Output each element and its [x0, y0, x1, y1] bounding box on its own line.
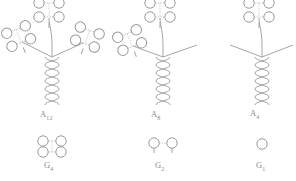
label-G2-sub: 2 — [161, 166, 164, 172]
structure-A8 — [111, 0, 197, 105]
label-G4: G4 — [44, 160, 54, 172]
label-A12: A12 — [40, 109, 53, 121]
structure-A4 — [230, 0, 293, 105]
label-G4-sub: 4 — [50, 166, 53, 172]
legend-item-G2 — [149, 138, 177, 153]
A4-arm-left-bare — [230, 45, 262, 57]
A12-arm-top — [49, 18, 52, 57]
A8-double-helix-stem — [156, 57, 170, 105]
structure-A12 — [0, 0, 106, 105]
label-A4: A4 — [250, 108, 260, 120]
label-A12-sub: 12 — [46, 115, 52, 121]
legend-item-G4 — [38, 136, 66, 157]
A4-cluster-top-G4 — [244, 0, 274, 28]
nanostructure-figure — [0, 0, 296, 181]
label-G1: G1 — [256, 160, 266, 172]
A12-double-helix-stem — [45, 57, 59, 105]
label-G2: G2 — [155, 160, 165, 172]
A8-arm-left — [133, 46, 163, 57]
label-G1-sub: 1 — [262, 166, 265, 172]
A12-arms — [22, 18, 83, 57]
A8-cluster-top-G4 — [145, 0, 175, 28]
A8-cluster-left-G4 — [111, 23, 150, 62]
label-A4-sub: 4 — [256, 114, 259, 120]
A8-arm-right-bare — [163, 45, 197, 57]
A4-arm-top — [259, 18, 262, 57]
A12-cluster-left-G4 — [0, 19, 39, 58]
legend-item-G1 — [257, 139, 267, 149]
label-A8-sub: 8 — [157, 115, 160, 121]
A4-arm-right-bare — [262, 45, 293, 57]
A12-cluster-top-G4 — [34, 0, 64, 28]
A4-arms — [230, 18, 293, 57]
A12-cluster-right-G4 — [67, 20, 106, 59]
A4-double-helix-stem — [255, 57, 269, 105]
A12-arm-left — [22, 42, 52, 57]
label-A8: A8 — [151, 109, 161, 121]
